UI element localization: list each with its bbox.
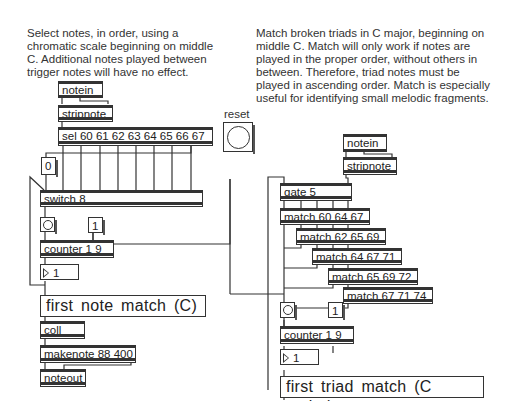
number-box-left[interactable]: 1 xyxy=(40,264,79,280)
triangle-icon xyxy=(283,353,289,363)
first-note-match-label: first note match (C) xyxy=(40,295,206,317)
match-object-1[interactable]: match 60 64 67 xyxy=(280,208,370,225)
reset-label: reset xyxy=(224,108,250,121)
counter-object-left[interactable]: counter 1 9 xyxy=(40,240,114,258)
left-comment: Select notes, in order, using a chromati… xyxy=(27,27,213,79)
bang-circle-icon xyxy=(227,126,250,149)
sel-object[interactable]: sel 60 61 62 63 64 65 66 67 xyxy=(58,127,213,146)
notein-object-right[interactable]: notein xyxy=(343,134,387,152)
match-object-3[interactable]: match 64 67 71 xyxy=(312,248,402,265)
gate-object[interactable]: gate 5 xyxy=(280,183,352,201)
bang-button-right[interactable] xyxy=(280,302,295,318)
message-one-right[interactable]: 1 xyxy=(328,302,343,318)
message-one-left[interactable]: 1 xyxy=(88,217,103,233)
triangle-icon xyxy=(43,268,49,278)
number-box-right[interactable]: 1 xyxy=(280,349,319,365)
bang-circle-icon xyxy=(283,305,293,315)
counter-object-right[interactable]: counter 1 9 xyxy=(280,326,354,344)
number-value-left: 1 xyxy=(53,267,59,279)
right-comment: Match broken triads in C major, beginnin… xyxy=(256,27,490,105)
stripnote-object-right[interactable]: stripnote xyxy=(343,157,397,175)
number-value-right: 1 xyxy=(293,352,299,364)
coll-object[interactable]: coll xyxy=(40,321,85,339)
match-object-4[interactable]: match 65 69 72 xyxy=(328,268,418,285)
notein-object-left[interactable]: notein xyxy=(58,81,103,98)
bang-circle-icon xyxy=(43,220,53,230)
bang-button-left[interactable] xyxy=(40,217,55,232)
noteout-object[interactable]: noteout xyxy=(40,369,86,387)
message-zero[interactable]: 0 xyxy=(41,157,56,175)
first-triad-match-label: first triad match (C major) xyxy=(280,376,484,398)
match-object-2[interactable]: match 62 65 69 xyxy=(296,228,386,245)
reset-bang-button[interactable] xyxy=(223,122,253,152)
switch-object[interactable]: switch 8 xyxy=(40,190,203,207)
makenote-object[interactable]: makenote 88 400 xyxy=(40,345,136,363)
match-object-5[interactable]: match 67 71 74 xyxy=(343,287,433,304)
stripnote-object-left[interactable]: stripnote xyxy=(58,105,113,122)
